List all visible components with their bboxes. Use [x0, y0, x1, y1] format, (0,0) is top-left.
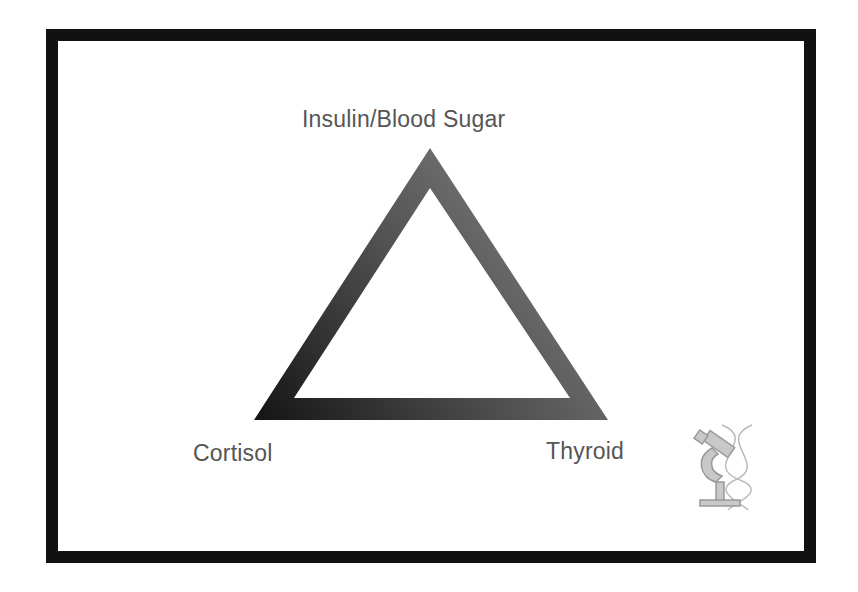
triangle-diagram — [0, 0, 858, 592]
microscope-dna-icon — [694, 425, 752, 510]
triangle-shape — [254, 148, 608, 420]
vertex-label-bottom-right: Thyroid — [546, 438, 624, 465]
vertex-label-top: Insulin/Blood Sugar — [302, 106, 505, 133]
vertex-label-bottom-left: Cortisol — [193, 440, 273, 467]
